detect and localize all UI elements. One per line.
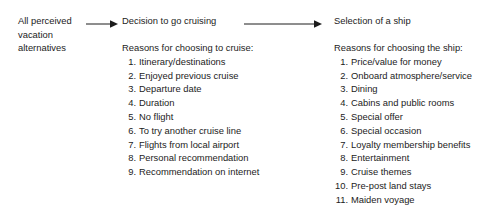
list-item-label: To try another cruise line [139,124,241,138]
list-item-number: 7. [334,138,348,152]
list-item: 9. Recommendation on internet [122,165,322,179]
list-item: 4. Duration [122,96,322,110]
node-ship-reason-list: 1. Price/value for money 2. Onboard atmo… [334,55,493,206]
list-item-number: 5. [334,110,348,124]
list-item-label: Onboard atmosphere/service [351,69,472,83]
list-item: 1. Price/value for money [334,55,493,69]
list-item-number: 3. [122,82,136,96]
node-source-title-line-1: All perceived [18,14,86,28]
list-item: 8. Personal recommendation [122,151,322,165]
list-item-number: 1. [334,55,348,69]
list-item: 1. Itinerary/destinations [122,55,322,69]
list-item: 9. Cruise themes [334,165,493,179]
list-item-label: Enjoyed previous cruise [139,69,239,83]
list-item-label: Special offer [351,110,403,124]
list-item-number: 1. [122,55,136,69]
node-all-perceived-vacation-alternatives: All perceived vacation alternatives [18,14,86,55]
list-item-number: 10. [334,179,348,193]
list-item: 2. Enjoyed previous cruise [122,69,322,83]
node-selection-of-a-ship: Selection of a ship Reasons for choosing… [334,14,493,206]
list-item-number: 6. [334,124,348,138]
node-cruise-reason-list: 1. Itinerary/destinations 2. Enjoyed pre… [122,55,322,179]
right-arrow-icon [86,18,118,30]
list-item: 8. Entertainment [334,151,493,165]
list-item-number: 9. [334,165,348,179]
node-cruise-reasons-heading: Reasons for choosing to cruise: [122,41,322,55]
list-item: 5. No flight [122,110,322,124]
list-item-label: Departure date [139,82,202,96]
node-decision-to-go-cruising: Decision to go cruising Reasons for choo… [122,14,322,179]
list-item-number: 4. [334,96,348,110]
list-item-number: 5. [122,110,136,124]
list-item-label: No flight [139,110,173,124]
list-item: 10. Pre-post land stays [334,179,493,193]
node-ship-title: Selection of a ship [334,14,493,28]
list-item: 7. Loyalty membership benefits [334,138,493,152]
diagram-canvas: All perceived vacation alternatives Deci… [0,0,493,206]
list-item-label: Price/value for money [351,55,442,69]
list-item-label: Maiden voyage [351,193,415,206]
node-source-title-line-3: alternatives [18,41,86,55]
list-item: 2. Onboard atmosphere/service [334,69,493,83]
node-source-title-line-2: vacation [18,28,86,42]
list-item: 3. Dining [334,82,493,96]
list-item-label: Loyalty membership benefits [351,138,470,152]
list-item: 3. Departure date [122,82,322,96]
list-item-label: Dining [351,82,378,96]
list-item-number: 3. [334,82,348,96]
list-item: 6. Special occasion [334,124,493,138]
list-item-label: Flights from local airport [139,138,239,152]
list-item-label: Cruise themes [351,165,411,179]
node-ship-reasons-heading: Reasons for choosing the ship: [334,41,493,55]
list-item-label: Pre-post land stays [351,179,431,193]
node-cruise-title: Decision to go cruising [122,14,322,28]
list-item-label: Duration [139,96,174,110]
list-item: 7. Flights from local airport [122,138,322,152]
list-item-number: 2. [122,69,136,83]
list-item-number: 4. [122,96,136,110]
list-item-number: 2. [334,69,348,83]
list-item-number: 7. [122,138,136,152]
list-item-number: 8. [122,151,136,165]
list-item-label: Cabins and public rooms [351,96,454,110]
list-item-number: 11. [334,193,348,206]
list-item-label: Personal recommendation [139,151,248,165]
list-item: 5. Special offer [334,110,493,124]
list-item-label: Recommendation on internet [139,165,259,179]
list-item-label: Entertainment [351,151,409,165]
list-item-label: Itinerary/destinations [139,55,226,69]
list-item: 11. Maiden voyage [334,193,493,206]
list-item-label: Special occasion [351,124,421,138]
list-item-number: 6. [122,124,136,138]
list-item: 6. To try another cruise line [122,124,322,138]
list-item-number: 8. [334,151,348,165]
list-item-number: 9. [122,165,136,179]
list-item: 4. Cabins and public rooms [334,96,493,110]
